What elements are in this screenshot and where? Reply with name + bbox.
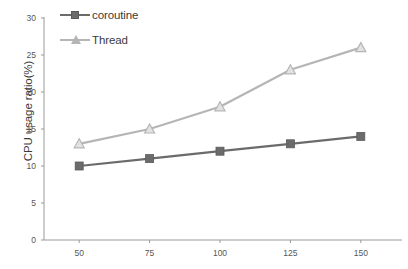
series-layer — [74, 43, 366, 170]
data-point — [286, 140, 294, 148]
legend-swatch-thread — [60, 33, 90, 47]
triangle-marker-icon — [71, 35, 81, 44]
legend-item-coroutine: coroutine — [60, 8, 138, 22]
square-marker-icon — [71, 11, 79, 19]
x-tick-label: 50 — [59, 249, 99, 258]
series-thread — [74, 43, 366, 148]
y-tick-label: 30 — [14, 14, 36, 23]
legend-label-thread: Thread — [92, 34, 128, 46]
y-tick-label: 25 — [14, 51, 36, 60]
x-tick-label: 100 — [200, 249, 240, 258]
x-tick-label: 125 — [270, 249, 310, 258]
data-point — [216, 147, 224, 155]
legend-item-thread: Thread — [60, 33, 138, 47]
legend-label-coroutine: coroutine — [92, 9, 138, 21]
legend-swatch-coroutine — [60, 8, 90, 22]
chart-container: CPU usage ratio(%) 051015202530 50751001… — [0, 0, 408, 269]
x-tick-label: 150 — [341, 249, 381, 258]
data-point — [356, 43, 366, 52]
y-tick-label: 10 — [14, 162, 36, 171]
y-tick-label: 5 — [14, 199, 36, 208]
y-tick-label: 0 — [14, 236, 36, 245]
data-point — [146, 155, 154, 163]
data-point — [75, 162, 83, 170]
y-tick-label: 15 — [14, 125, 36, 134]
x-tick-label: 75 — [130, 249, 170, 258]
series-coroutine — [75, 132, 365, 170]
y-tick-label: 20 — [14, 88, 36, 97]
data-point — [357, 132, 365, 140]
data-point — [215, 102, 225, 111]
chart-legend: coroutine Thread — [60, 8, 138, 58]
